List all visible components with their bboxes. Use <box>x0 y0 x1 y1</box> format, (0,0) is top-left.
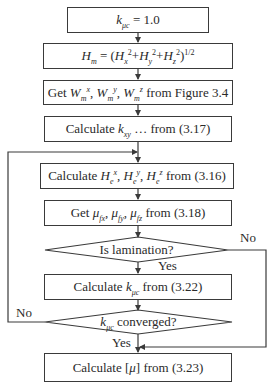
decision-lamination-text: Is lamination? <box>99 242 173 258</box>
init-text: kμc = 1.0 <box>116 12 159 28</box>
edge-label-converged-yes: Yes <box>112 335 131 351</box>
decision-converged-text: kμc converged? <box>100 314 176 330</box>
k-calc-step: Calculate kμc from (3.22) <box>44 274 232 300</box>
mu-text: Get μfx, μfy, μfz from (3.18) <box>71 205 206 221</box>
he-step: Calculate Hex, Hey, Hez from (3.16) <box>40 163 234 189</box>
kxy-text: Calculate kxy … from (3.17) <box>66 121 211 137</box>
decision-converged: kμc converged? <box>45 312 232 332</box>
decision-lamination: Is lamination? <box>45 240 228 260</box>
k-calc-text: Calculate kμc from (3.22) <box>74 279 203 295</box>
init-step: kμc = 1.0 <box>67 7 209 33</box>
hm-step: Hm = (Hx2+Hy2+Hz2)1/2 <box>43 43 233 69</box>
mu-step: Get μfx, μfy, μfz from (3.18) <box>44 200 232 226</box>
get-w-text: Get Wmx, Wmy, Wmz from Figure 3.4 <box>48 85 228 101</box>
kxy-step: Calculate kxy … from (3.17) <box>44 116 232 142</box>
final-step: Calculate [μ] from (3.23) <box>44 353 232 382</box>
he-text: Calculate Hex, Hey, Hez from (3.16) <box>48 168 226 184</box>
edge-label-lamination-no: No <box>240 230 256 246</box>
edge-label-converged-no: No <box>16 305 32 321</box>
hm-text: Hm = (Hx2+Hy2+Hz2)1/2 <box>81 48 194 64</box>
get-w-step: Get Wmx, Wmy, Wmz from Figure 3.4 <box>43 80 233 105</box>
final-text: Calculate [μ] from (3.23) <box>73 360 204 376</box>
edge-label-lamination-yes: Yes <box>158 258 177 274</box>
